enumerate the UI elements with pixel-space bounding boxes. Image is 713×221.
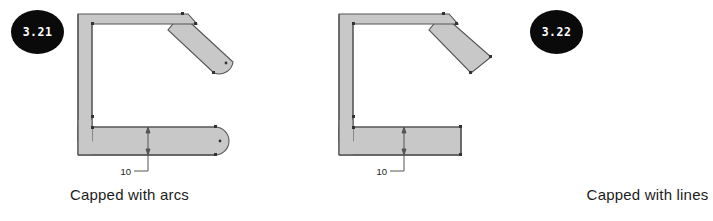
ribbon-shape-lines bbox=[339, 14, 491, 155]
vertex-marker bbox=[91, 22, 94, 25]
vertex-marker bbox=[91, 115, 94, 118]
vertex-marker bbox=[455, 22, 458, 25]
vertex-marker bbox=[181, 12, 184, 15]
figure-badge-label: 3.21 bbox=[23, 25, 53, 39]
figure-badge-3-21: 3.21 bbox=[11, 10, 64, 54]
vertex-marker bbox=[469, 71, 472, 74]
vertex-marker bbox=[214, 125, 217, 128]
stem-join-lines bbox=[339, 120, 353, 155]
figure-badge-3-22: 3.22 bbox=[530, 10, 583, 54]
vertex-marker bbox=[214, 153, 217, 156]
lower-arm-arcs bbox=[78, 127, 229, 155]
vertex-marker bbox=[489, 55, 492, 58]
vertex-marker bbox=[212, 71, 215, 74]
cap-center-marker bbox=[219, 140, 222, 143]
vertex-marker bbox=[194, 22, 197, 25]
ribbon-shape-arcs bbox=[78, 14, 233, 155]
stem-join-arcs bbox=[78, 120, 92, 155]
figure-caption-lines: Capped with lines bbox=[518, 186, 713, 203]
cap-center-marker bbox=[225, 62, 228, 65]
vertex-marker bbox=[352, 22, 355, 25]
vertex-marker bbox=[459, 125, 462, 128]
dimension-value-arcs: 10 bbox=[120, 166, 131, 177]
figure-panel-arcs: 10 3.21 Capped with arcs bbox=[0, 0, 259, 221]
vertex-marker bbox=[459, 153, 462, 156]
diagram-capped-with-lines: 10 bbox=[259, 0, 518, 221]
vertex-marker bbox=[352, 115, 355, 118]
dimension-value-lines: 10 bbox=[376, 166, 387, 177]
figure-caption-arcs: Capped with arcs bbox=[0, 186, 259, 203]
lower-arm-lines bbox=[339, 127, 461, 155]
vertex-marker bbox=[442, 12, 445, 15]
vertex-marker bbox=[352, 126, 355, 129]
figure-panel-lines: 10 3.22 Capped with lines bbox=[259, 0, 518, 221]
vertex-marker bbox=[91, 126, 94, 129]
figure-badge-label: 3.22 bbox=[542, 25, 572, 39]
